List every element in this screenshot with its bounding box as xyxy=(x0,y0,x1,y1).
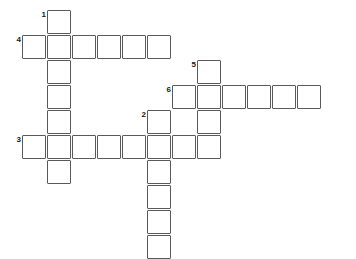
crossword-cell-letter xyxy=(248,86,270,108)
crossword-cell[interactable] xyxy=(147,185,171,209)
crossword-clue-number: 4 xyxy=(11,36,21,44)
crossword-cell[interactable] xyxy=(47,35,71,59)
crossword-cell-letter xyxy=(148,111,170,133)
crossword-cell-letter xyxy=(23,136,45,158)
crossword-cell-letter xyxy=(198,61,220,83)
crossword-cell-letter xyxy=(48,11,70,33)
crossword-cell[interactable] xyxy=(72,35,96,59)
crossword-clue-number: 3 xyxy=(11,136,21,144)
crossword-cell-letter xyxy=(173,86,195,108)
crossword-cell[interactable] xyxy=(97,135,121,159)
crossword-cell-letter xyxy=(48,61,70,83)
crossword-cell[interactable] xyxy=(47,110,71,134)
crossword-cell-letter xyxy=(73,36,95,58)
crossword-clue-number: 6 xyxy=(161,86,171,94)
crossword-cell[interactable] xyxy=(122,35,146,59)
crossword-cell-letter xyxy=(148,211,170,233)
crossword-cell[interactable] xyxy=(47,135,71,159)
crossword-cell-letter xyxy=(148,136,170,158)
crossword-cell-letter xyxy=(123,36,145,58)
crossword-cell[interactable] xyxy=(47,85,71,109)
crossword-cell-letter xyxy=(173,136,195,158)
crossword-grid[interactable]: 145623 xyxy=(0,0,356,259)
crossword-cell[interactable] xyxy=(47,10,71,34)
crossword-cell[interactable] xyxy=(147,135,171,159)
crossword-cell-letter xyxy=(98,136,120,158)
crossword-cell[interactable] xyxy=(172,135,196,159)
crossword-cell-letter xyxy=(48,36,70,58)
crossword-cell-letter xyxy=(198,86,220,108)
crossword-cell[interactable] xyxy=(172,85,196,109)
crossword-cell-letter xyxy=(148,161,170,183)
crossword-cell[interactable] xyxy=(297,85,321,109)
crossword-clue-number: 1 xyxy=(36,11,46,19)
crossword-cell[interactable] xyxy=(147,210,171,234)
crossword-cell-letter xyxy=(48,86,70,108)
crossword-cell[interactable] xyxy=(72,135,96,159)
crossword-cell[interactable] xyxy=(247,85,271,109)
crossword-cell[interactable] xyxy=(272,85,296,109)
crossword-cell[interactable] xyxy=(22,35,46,59)
crossword-cell[interactable] xyxy=(222,85,246,109)
crossword-cell-letter xyxy=(148,36,170,58)
crossword-cell[interactable] xyxy=(22,135,46,159)
crossword-cell-letter xyxy=(223,86,245,108)
crossword-cell-letter xyxy=(198,136,220,158)
crossword-cell-letter xyxy=(48,111,70,133)
crossword-cell-letter xyxy=(73,136,95,158)
crossword-cell-letter xyxy=(48,161,70,183)
crossword-cell[interactable] xyxy=(147,110,171,134)
crossword-clue-number: 2 xyxy=(136,111,146,119)
crossword-cell-letter xyxy=(298,86,320,108)
crossword-cell-letter xyxy=(148,236,170,258)
crossword-cell-letter xyxy=(123,136,145,158)
crossword-cell[interactable] xyxy=(147,235,171,259)
crossword-cell-letter xyxy=(23,36,45,58)
crossword-cell-letter xyxy=(48,136,70,158)
crossword-cell[interactable] xyxy=(197,135,221,159)
crossword-cell[interactable] xyxy=(147,35,171,59)
crossword-cell[interactable] xyxy=(197,60,221,84)
crossword-cell-letter xyxy=(198,111,220,133)
crossword-cell-letter xyxy=(98,36,120,58)
crossword-cell[interactable] xyxy=(197,85,221,109)
crossword-cell-letter xyxy=(273,86,295,108)
crossword-cell[interactable] xyxy=(97,35,121,59)
crossword-cell[interactable] xyxy=(47,60,71,84)
crossword-clue-number: 5 xyxy=(186,61,196,69)
crossword-cell-letter xyxy=(148,186,170,208)
crossword-cell[interactable] xyxy=(197,110,221,134)
crossword-cell[interactable] xyxy=(147,160,171,184)
crossword-cell[interactable] xyxy=(47,160,71,184)
crossword-cell[interactable] xyxy=(122,135,146,159)
